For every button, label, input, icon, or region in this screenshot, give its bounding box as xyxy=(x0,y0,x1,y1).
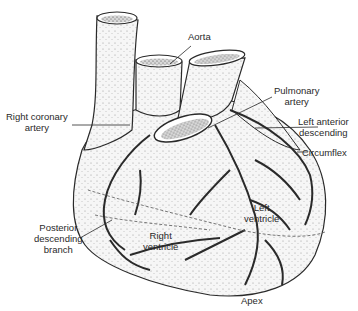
label-pulmonary-artery: Pulmonary artery xyxy=(274,85,319,107)
label-line: branch xyxy=(34,244,83,255)
label-line: Pulmonary xyxy=(274,85,319,96)
label-posterior-descending-branch: Posterior descending branch xyxy=(34,222,83,255)
aorta-vessel xyxy=(136,60,182,116)
label-line: Right xyxy=(143,230,178,241)
label-line: Left xyxy=(244,202,279,213)
label-right-ventricle: Right ventricle xyxy=(143,230,178,252)
label-line: Right coronary xyxy=(6,111,68,122)
label-aorta: Aorta xyxy=(188,31,211,42)
label-line: Left anterior xyxy=(298,116,349,127)
label-line: descending xyxy=(34,233,83,244)
label-right-coronary-artery: Right coronary artery xyxy=(6,111,68,133)
superior-vena-cava xyxy=(84,16,138,150)
label-line: ventricle xyxy=(244,213,279,224)
label-line: Posterior xyxy=(34,222,83,233)
label-line: artery xyxy=(274,96,319,107)
label-left-ventricle: Left ventricle xyxy=(244,202,279,224)
label-left-anterior-descending: Left anterior descending xyxy=(298,116,349,138)
label-line: artery xyxy=(6,122,68,133)
label-line: ventricle xyxy=(143,241,178,252)
label-circumflex: Circumflex xyxy=(302,147,347,158)
label-line: descending xyxy=(298,127,349,138)
label-apex: Apex xyxy=(241,295,263,306)
